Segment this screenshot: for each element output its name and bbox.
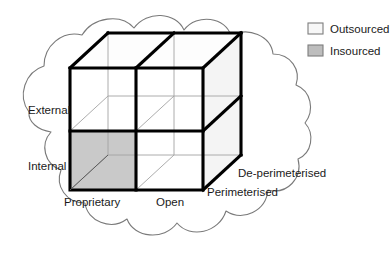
legend-label-outsourced: Outsourced <box>330 23 389 35</box>
axis-label-external: External <box>28 104 70 116</box>
axis-label-open: Open <box>156 196 184 208</box>
axis-label-proprietary: Proprietary <box>64 196 120 208</box>
diagram-canvas: External Internal Proprietary Open Perim… <box>0 0 390 265</box>
axis-label-perimeterised: Perimeterised <box>207 186 278 198</box>
legend-swatch-outsourced <box>308 23 323 34</box>
legend-label-insourced: Insourced <box>330 45 381 57</box>
jericho-cube-diagram: External Internal Proprietary Open Perim… <box>0 0 390 265</box>
axis-label-de-perimeterised: De-perimeterised <box>238 167 326 179</box>
legend-item-insourced[interactable]: Insourced <box>308 45 381 57</box>
legend-swatch-insourced <box>308 45 323 56</box>
axis-label-internal: Internal <box>28 160 66 172</box>
sourcing-legend: Outsourced Insourced <box>308 23 389 57</box>
legend-item-outsourced[interactable]: Outsourced <box>308 23 389 35</box>
